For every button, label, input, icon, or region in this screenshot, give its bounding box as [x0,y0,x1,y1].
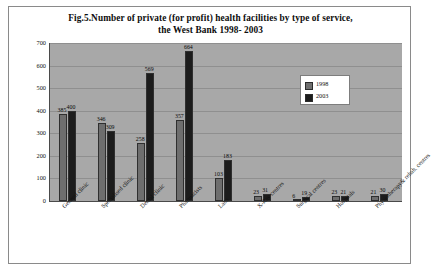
bar-value-label: 30 [379,187,385,193]
y-axis-tick-label: 600 [12,62,46,69]
y-axis-tick-label: 700 [12,39,46,46]
y-axis: 0100200300400500600700 [9,7,49,165]
y-axis-tick-label: 200 [12,152,46,159]
bar-value-label: 258 [136,136,145,142]
chart-legend: 19982003 [300,75,350,105]
bar-2003[interactable] [185,51,193,201]
bar-2003[interactable] [68,111,76,201]
bar-value-label: 23 [253,189,259,195]
bar-value-label: 103 [214,171,223,177]
bar-1998[interactable] [98,123,106,201]
bar-1998[interactable] [176,120,184,201]
bar-value-label: 309 [106,124,115,130]
bar-value-label: 569 [145,66,154,72]
bar-value-label: 183 [223,153,232,159]
bar-value-label: 23 [331,189,337,195]
chart-title-line-2: the West Bank 1998- 2003 [9,25,412,37]
bar-1998[interactable] [59,114,67,201]
bar-1998[interactable] [137,143,145,201]
gridline [50,66,402,67]
bar-value-label: 357 [175,113,184,119]
chart-title: Fig.5.Number of private (for profit) hea… [9,13,412,36]
gridline [50,111,402,112]
legend-label: 2003 [316,92,328,99]
bar-1998[interactable] [215,178,223,201]
chart-frame: Fig.5.Number of private (for profit) hea… [8,6,411,264]
bar-value-label: 664 [184,44,193,50]
y-axis-tick-label: 400 [12,107,46,114]
legend-swatch-icon [305,94,313,102]
bar-value-label: 346 [97,116,106,122]
bar-value-label: 6 [292,193,295,199]
legend-label: 1998 [316,80,328,87]
y-axis-tick-label: 300 [12,129,46,136]
y-axis-tick-label: 100 [12,174,46,181]
chart-title-line-1: Fig.5.Number of private (for profit) hea… [9,13,412,25]
y-axis-tick-label: 0 [12,197,46,204]
gridline [50,43,402,44]
plot-area: 3854003463092585693576641031832331619232… [49,43,402,202]
bar-value-label: 400 [67,104,76,110]
bar-value-label: 385 [58,107,67,113]
bar-2003[interactable] [146,73,154,201]
bar-2003[interactable] [224,160,232,201]
y-axis-tick-label: 500 [12,84,46,91]
legend-swatch-icon [305,82,313,90]
bar-value-label: 21 [370,189,376,195]
